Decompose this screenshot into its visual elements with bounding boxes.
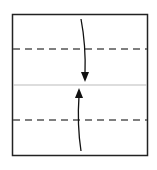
fold-diagram bbox=[0, 0, 157, 170]
